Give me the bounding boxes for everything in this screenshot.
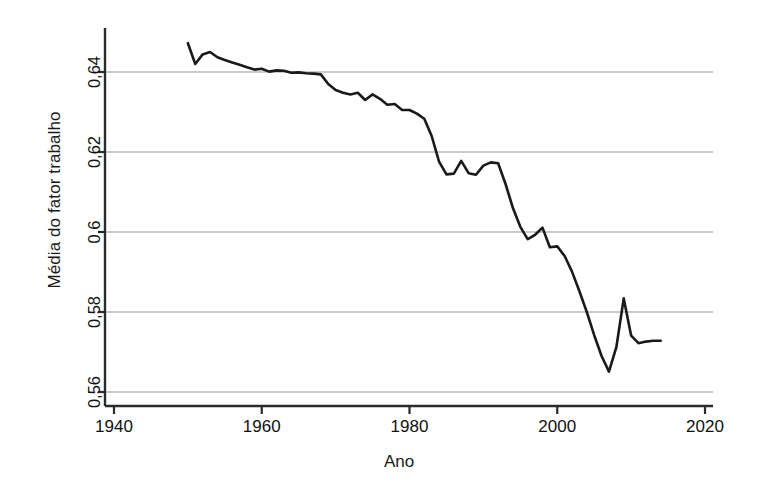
y-tick-label-3: 0,62 [84, 124, 104, 180]
gridlines-group [105, 72, 713, 392]
data-line-media-fator-trabalho [188, 43, 661, 371]
axes-group [105, 28, 713, 406]
chart-figure: Média do fator trabalho 0,56 0,58 0,6 0,… [0, 0, 758, 491]
y-tick-label-2: 0,6 [84, 204, 104, 260]
x-tick-label-2: 1980 [375, 416, 445, 438]
y-tick-label-1: 0,58 [84, 284, 104, 340]
x-tick-label-0: 1940 [79, 416, 149, 438]
y-axis-title: Média do fator trabalho [38, 0, 72, 400]
y-tick-label-4: 0,64 [84, 44, 104, 100]
x-tick-label-1: 1960 [227, 416, 297, 438]
x-tick-label-4: 2020 [670, 416, 740, 438]
y-tick-label-0: 0,56 [84, 364, 104, 420]
x-axis-title: Ano [309, 452, 489, 472]
x-tick-label-3: 2000 [522, 416, 592, 438]
tick-marks-group [98, 72, 705, 414]
data-series-group [188, 43, 661, 371]
